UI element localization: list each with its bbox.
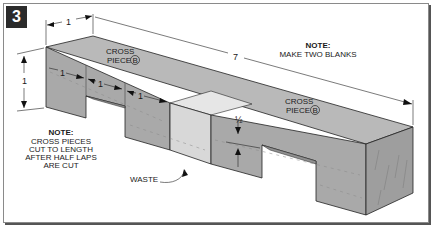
dim-segment-3: 1: [138, 91, 143, 101]
note-blanks-line1: MAKE TWO BLANKS: [279, 50, 356, 59]
cross-piece-right-line1: CROSS: [285, 97, 313, 106]
part-ref-left: B: [133, 56, 138, 65]
waste-label: WASTE: [130, 175, 158, 184]
dim-width-top: 1: [66, 17, 71, 27]
cross-piece-right-line2: PIECE: [286, 106, 310, 115]
dim-segment-1: 1: [60, 68, 65, 78]
cross-piece-left-line1: CROSS: [106, 47, 134, 56]
part-ref-right: B: [313, 106, 318, 115]
waste-leader-line: [160, 170, 185, 183]
half-lap-blank-diagram: 1 1 7 1 1 1 ½ CROSS PIECE B CROSS PIECE …: [0, 0, 435, 226]
note-cross-line4: ARE CUT: [43, 161, 78, 170]
dim-lap-depth: ½: [235, 115, 243, 125]
note-cross-title: NOTE:: [49, 128, 74, 137]
dim-overall-length: 7: [233, 52, 238, 62]
note-blanks-title: NOTE:: [306, 41, 331, 50]
dim-segment-2: 1: [98, 79, 103, 89]
dim-height-left: 1: [22, 76, 27, 86]
cross-piece-left-line2: PIECE: [107, 56, 131, 65]
